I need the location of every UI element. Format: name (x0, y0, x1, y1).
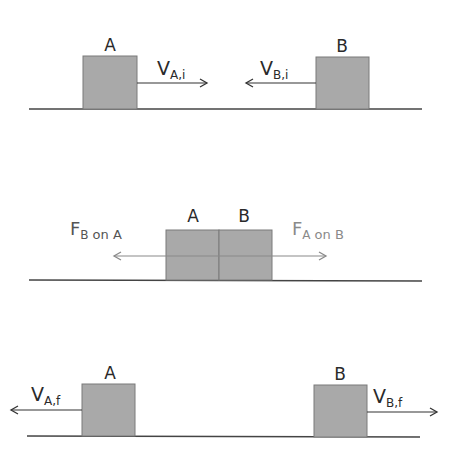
block-b (314, 385, 367, 437)
block-a-label: A (104, 363, 116, 383)
block-a (166, 230, 219, 280)
velocity-label-b-initial: VB,i (260, 57, 288, 82)
panel-before-collision: A B VA,i VB,i (29, 35, 422, 109)
panel-after-collision: A B VA,f VB,f (11, 363, 437, 437)
block-b (316, 57, 369, 109)
panel-during-collision: A B FBon A FAon B (29, 206, 422, 281)
velocity-label-a-initial: VA,i (157, 57, 185, 82)
block-a-label: A (104, 35, 116, 55)
collision-diagram: A B VA,i VB,i A B FBon A FAon B A (0, 0, 456, 449)
velocity-label-a-final: VA,f (31, 383, 61, 408)
block-b-label: B (238, 206, 250, 226)
block-a (82, 384, 135, 436)
block-b-label: B (336, 36, 348, 56)
block-a-label: A (187, 206, 199, 226)
force-label-a-on-b: FAon B (292, 218, 344, 242)
block-a (83, 56, 137, 109)
block-b (219, 230, 272, 280)
force-label-b-on-a: FBon A (70, 218, 122, 242)
block-b-label: B (334, 364, 346, 384)
velocity-label-b-final: VB,f (373, 385, 403, 410)
